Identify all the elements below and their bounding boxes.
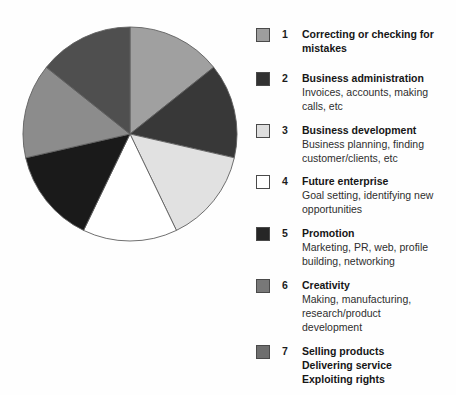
legend-item-1: 1 Correcting or checking for mistakes	[256, 27, 452, 55]
legend-description-2: Invoices, accounts, making calls, etc	[302, 85, 452, 113]
legend-number-7: 7	[282, 344, 302, 358]
legend-item-4: 4 Future enterprise Goal setting, identi…	[256, 174, 452, 216]
legend: 1 Correcting or checking for mistakes 2 …	[0, 0, 456, 395]
legend-item-3: 3 Business development Business planning…	[256, 123, 452, 165]
color-swatch-6	[256, 279, 270, 293]
color-swatch-3	[256, 124, 270, 138]
legend-item-6: 6 Creativity Making, manufacturing, rese…	[256, 278, 452, 334]
legend-item-7: 7 Selling products Delivering service Ex…	[256, 344, 452, 386]
legend-description-5: Marketing, PR, web, profile building, ne…	[302, 240, 452, 268]
legend-title-7: Selling products Delivering service Expl…	[302, 344, 452, 386]
legend-title-4: Future enterprise	[302, 174, 452, 188]
legend-item-5: 5 Promotion Marketing, PR, web, profile …	[256, 226, 452, 268]
color-swatch-5	[256, 227, 270, 241]
legend-description-4: Goal setting, identifying new opportunit…	[302, 188, 452, 216]
legend-number-5: 5	[282, 226, 302, 240]
legend-number-3: 3	[282, 123, 302, 137]
legend-title-3: Business development	[302, 123, 452, 137]
legend-number-1: 1	[282, 27, 302, 41]
color-swatch-2	[256, 72, 270, 86]
legend-item-2: 2 Business administration Invoices, acco…	[256, 71, 452, 113]
color-swatch-4	[256, 175, 270, 189]
legend-number-2: 2	[282, 71, 302, 85]
legend-description-3: Business planning, finding customer/clie…	[302, 137, 452, 165]
figure: 1 Correcting or checking for mistakes 2 …	[0, 0, 456, 395]
legend-number-6: 6	[282, 278, 302, 292]
legend-number-4: 4	[282, 174, 302, 188]
legend-title-6: Creativity	[302, 278, 452, 292]
legend-title-1: Correcting or checking for mistakes	[302, 27, 452, 55]
color-swatch-7	[256, 345, 270, 359]
color-swatch-1	[256, 28, 270, 42]
legend-title-5: Promotion	[302, 226, 452, 240]
legend-title-2: Business administration	[302, 71, 452, 85]
legend-description-6: Making, manufacturing, research/product …	[302, 292, 452, 334]
